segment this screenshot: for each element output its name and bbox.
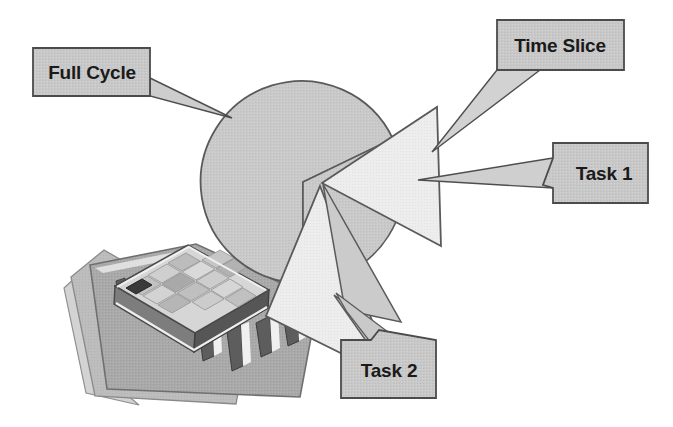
callout-time-slice[interactable]: Time Slice xyxy=(497,20,624,70)
time-slice-diagram: Full Cycle Time Slice Task 1 Task 2 xyxy=(0,0,673,427)
callout-task-1[interactable]: Task 1 xyxy=(543,143,648,203)
callout-label-task-2: Task 2 xyxy=(361,360,418,381)
leader-full-cycle xyxy=(150,78,232,118)
leader-time-slice xyxy=(432,70,540,152)
diagram-canvas: Full Cycle Time Slice Task 1 Task 2 xyxy=(0,0,673,427)
callout-label-time-slice: Time Slice xyxy=(514,35,606,56)
callout-label-full-cycle: Full Cycle xyxy=(48,62,136,83)
callout-label-task-1: Task 1 xyxy=(576,163,633,184)
callout-task-2[interactable]: Task 2 xyxy=(341,330,436,398)
callout-full-cycle[interactable]: Full Cycle xyxy=(33,48,150,96)
